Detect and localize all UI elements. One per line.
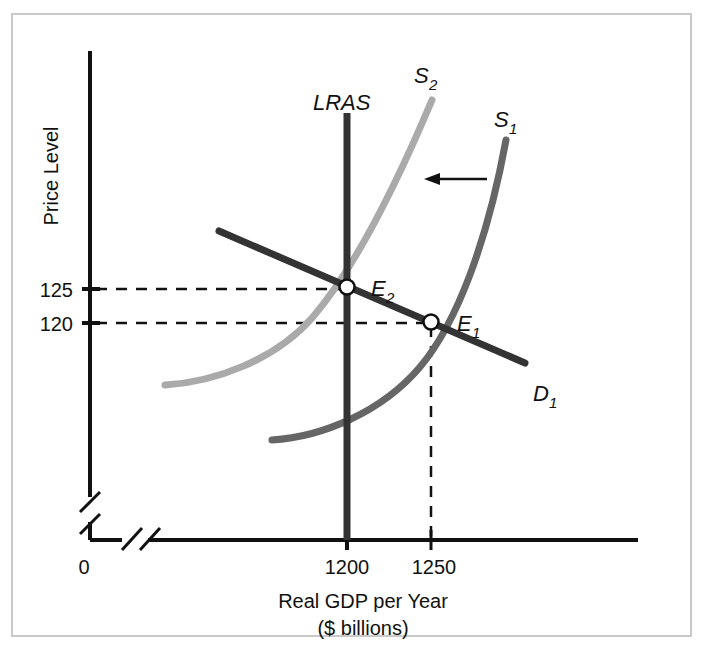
curve-s2 bbox=[165, 100, 432, 385]
annotation-label-e1-subscript: 1 bbox=[472, 324, 480, 341]
curve-label-d1-subscript: 1 bbox=[549, 394, 557, 411]
x-axis-title: Real GDP per Year bbox=[278, 590, 448, 612]
annotation-label-e2-subscript: 2 bbox=[385, 289, 395, 306]
curve-label-s2: S bbox=[414, 63, 429, 88]
annotation-label-e1: E bbox=[457, 311, 472, 336]
x-axis-break-mark-left bbox=[122, 528, 142, 550]
y-tick-label-125: 125 bbox=[40, 279, 73, 301]
shift-arrow-head-icon bbox=[424, 173, 440, 185]
curve-label-s1-subscript: 1 bbox=[509, 120, 517, 137]
y-axis-title: Price Level bbox=[40, 127, 62, 226]
x-axis-subtitle: ($ billions) bbox=[317, 617, 408, 639]
x-tick-label-1200: 1200 bbox=[325, 556, 370, 578]
annotation-label-e2: E bbox=[371, 276, 386, 301]
curve-label-lras: LRAS bbox=[313, 90, 371, 115]
chart-page: Price Level 125 120 0 1200 1250 Real GDP… bbox=[0, 0, 719, 664]
x-tick-label-1250: 1250 bbox=[412, 556, 457, 578]
y-tick-label-120: 120 bbox=[40, 313, 73, 335]
aggregate-supply-demand-chart: Price Level 125 120 0 1200 1250 Real GDP… bbox=[0, 0, 719, 664]
curve-label-d1: D bbox=[533, 381, 549, 406]
curve-label-s1: S bbox=[494, 107, 509, 132]
curve-label-s2-subscript: 2 bbox=[428, 76, 438, 93]
origin-label: 0 bbox=[78, 556, 89, 578]
equilibrium-marker-e1 bbox=[424, 315, 439, 330]
equilibrium-marker-e2 bbox=[340, 280, 355, 295]
